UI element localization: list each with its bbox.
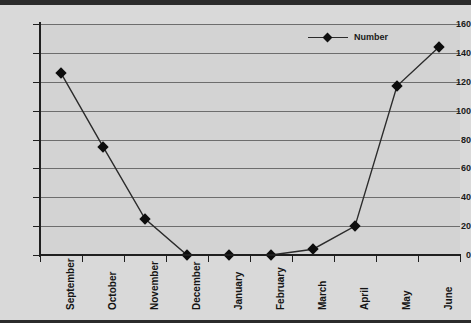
frame-top-rule bbox=[0, 0, 471, 5]
x-axis-tick-mark bbox=[124, 256, 125, 262]
y-axis-tick-label: 100 bbox=[441, 107, 471, 116]
x-axis-tick-mark bbox=[460, 256, 461, 262]
x-axis-tick-mark bbox=[166, 256, 167, 262]
y-axis-tick-mark bbox=[33, 226, 39, 227]
y-axis-tick-label: 80 bbox=[441, 136, 471, 145]
y-axis-line bbox=[39, 22, 41, 257]
y-axis-tick-mark bbox=[33, 111, 39, 112]
y-axis-tick-label: 60 bbox=[441, 164, 471, 173]
y-axis-tick-label: 0 bbox=[441, 251, 471, 260]
y-axis-tick-mark bbox=[33, 197, 39, 198]
x-axis-tick-label: May bbox=[401, 291, 412, 310]
x-axis-tick-label: September bbox=[65, 258, 76, 310]
y-axis-tick-mark bbox=[33, 53, 39, 54]
series-line-number bbox=[40, 24, 460, 255]
diamond-marker-icon bbox=[323, 32, 333, 42]
y-axis-tick-label: 120 bbox=[441, 78, 471, 87]
x-axis-tick-mark bbox=[250, 256, 251, 262]
y-axis-tick-mark bbox=[33, 255, 39, 256]
x-axis-tick-mark bbox=[40, 256, 41, 262]
y-axis-tick-mark bbox=[33, 168, 39, 169]
x-axis-tick-label: November bbox=[149, 261, 160, 310]
chart-figure: 020406080100120140160 SeptemberOctoberNo… bbox=[0, 0, 471, 331]
y-axis-tick-mark bbox=[33, 82, 39, 83]
x-axis-tick-mark bbox=[292, 256, 293, 262]
legend-item-label: Number bbox=[354, 32, 388, 42]
x-axis-tick-label: June bbox=[443, 287, 454, 310]
y-axis-tick-label: 160 bbox=[441, 20, 471, 29]
x-axis-tick-label: October bbox=[107, 272, 118, 310]
y-axis-tick-label: 140 bbox=[441, 49, 471, 58]
chart-legend: Number bbox=[308, 30, 388, 44]
x-axis-tick-mark bbox=[82, 256, 83, 262]
x-axis-tick-label: January bbox=[233, 272, 244, 310]
plot-area bbox=[40, 24, 460, 255]
x-axis-tick-label: February bbox=[275, 267, 286, 310]
x-axis-tick-mark bbox=[208, 256, 209, 262]
legend-line-swatch bbox=[308, 37, 348, 38]
x-axis-tick-label: April bbox=[359, 287, 370, 310]
y-axis-tick-label: 20 bbox=[441, 222, 471, 231]
x-axis-tick-mark bbox=[376, 256, 377, 262]
x-axis-tick-label: December bbox=[191, 262, 202, 310]
x-axis-tick-label: March bbox=[317, 281, 328, 310]
x-axis-tick-mark bbox=[334, 256, 335, 262]
y-axis-tick-mark bbox=[33, 140, 39, 141]
x-axis-tick-mark bbox=[418, 256, 419, 262]
y-axis-tick-label: 40 bbox=[441, 193, 471, 202]
frame-outer-margin bbox=[0, 323, 471, 331]
y-axis-tick-mark bbox=[33, 24, 39, 25]
